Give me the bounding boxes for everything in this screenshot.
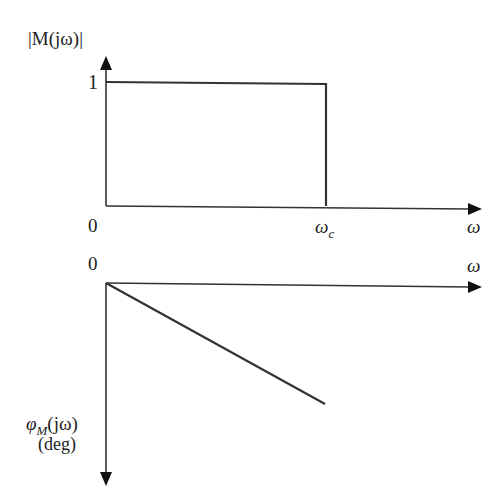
tick-label-omega-c: ωc (315, 216, 334, 241)
magnitude-curve (106, 82, 326, 206)
arrow-down-icon (100, 472, 112, 486)
magnitude-plot (100, 56, 482, 215)
phase-plot (100, 281, 482, 486)
chart-canvas: |M(jω)| 1 0 ωc ω 0 ω φM(jω) (deg) (0, 0, 501, 491)
tick-label-zero: 0 (88, 215, 98, 236)
arrow-right-icon (468, 281, 482, 293)
arrow-up-icon (100, 56, 112, 70)
phase-curve (106, 283, 325, 404)
magnitude-x-axis-label: ω (467, 216, 480, 237)
magnitude-x-axis (106, 206, 470, 209)
phase-x-axis-label: ω (467, 255, 480, 276)
phase-origin-label: 0 (88, 253, 98, 274)
tick-label-one: 1 (88, 71, 98, 93)
arrow-right-icon (468, 203, 482, 215)
phase-x-axis (106, 283, 470, 287)
magnitude-axis-label: |M(jω)| (28, 28, 83, 50)
phase-unit-label: (deg) (38, 434, 76, 455)
